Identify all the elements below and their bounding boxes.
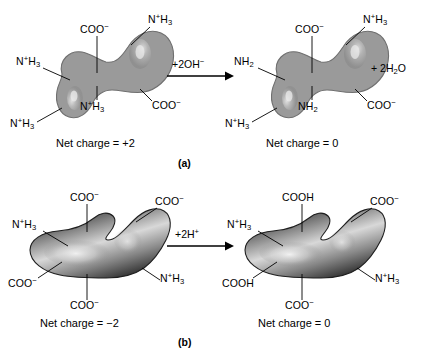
label-amine-left-a-right: NH2	[234, 56, 254, 67]
reagent-a: +2OH−	[172, 58, 204, 70]
protein-blob-b-left	[30, 209, 170, 278]
panel-label-b: (b)	[178, 336, 191, 348]
net-charge-b-right: Net charge = 0	[258, 317, 330, 329]
label-carboxylate-top-a-right: COO−	[295, 24, 324, 35]
panel-a: COO− N+H3 N+H3 N+H3 N+H3 COO− Net charge…	[0, 0, 430, 178]
reaction-arrow-b	[167, 242, 234, 251]
label-carboxylate-right-a-right: COO−	[367, 100, 396, 111]
label-ammonium-right-b-left: N+H3	[160, 273, 184, 284]
protein-charge-figure: COO− N+H3 N+H3 N+H3 N+H3 COO− Net charge…	[0, 0, 430, 356]
reagent-b: +2H+	[175, 228, 199, 240]
label-ammonium-top-right-a-right: N+H3	[363, 14, 387, 25]
panel-b: COO− COO− N+H3 COO− COO− N+H3 Net charge…	[0, 178, 430, 356]
panel-a-graphics	[0, 0, 430, 178]
label-carboxylate-right-a-left: COO−	[152, 100, 181, 111]
label-carboxylate-top-right-b-right: COO−	[370, 196, 399, 207]
net-charge-a-right: Net charge = 0	[266, 137, 338, 149]
label-ammonium-left-a-left: N+H3	[16, 56, 40, 67]
label-ammonium-top-right-a-left: N+H3	[148, 14, 172, 25]
label-carboxylate-lower-left-b-left: COO−	[8, 278, 37, 289]
reaction-arrow-a	[167, 72, 234, 81]
label-ammonium-right-b-right: N+H3	[375, 273, 399, 284]
byproduct-a: + 2H2O	[371, 62, 406, 74]
label-ammonium-bottom-left-a-right: N+H3	[225, 118, 249, 129]
label-ammonium-left-b-left: N+H3	[12, 219, 36, 230]
label-ammonium-bottom-left-a-left: N+H3	[10, 118, 34, 129]
net-charge-a-left: Net charge = +2	[56, 137, 135, 149]
panel-label-a: (a)	[178, 157, 191, 169]
label-ammonium-left-b-right: N+H3	[227, 219, 251, 230]
protein-blob-b-right	[245, 209, 385, 278]
label-carboxylate-bottom-b-left: COO−	[70, 300, 99, 311]
panel-b-graphics	[0, 178, 430, 356]
label-carboxyl-lower-left-b-right: COOH	[222, 278, 254, 289]
label-carboxylate-top-left-b-left: COO−	[70, 192, 99, 203]
label-amine-center-a-right: NH2	[298, 101, 318, 112]
label-carboxylate-bottom-b-right: COO−	[285, 300, 314, 311]
label-ammonium-center-a-left: N+H3	[80, 101, 104, 112]
label-carboxylate-top-right-b-left: COO−	[155, 196, 184, 207]
label-carboxyl-top-left-b-right: COOH	[282, 192, 314, 203]
label-carboxylate-top-a-left: COO−	[80, 24, 109, 35]
net-charge-b-left: Net charge = −2	[40, 317, 119, 329]
